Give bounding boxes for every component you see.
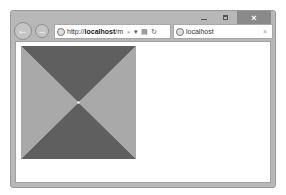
url-protocol: http:// bbox=[67, 28, 85, 35]
compatibility-view-icon[interactable]: ▤ bbox=[141, 28, 148, 36]
window-controls: × bbox=[193, 11, 271, 25]
maximize-icon bbox=[223, 15, 228, 20]
refresh-icon[interactable]: ↻ bbox=[151, 28, 157, 36]
close-icon: × bbox=[237, 11, 271, 25]
minimize-icon bbox=[201, 19, 207, 20]
page-viewport bbox=[15, 41, 271, 183]
address-bar[interactable]: http://localhost/m ⌕ ▾ ▤ ↻ bbox=[54, 24, 171, 39]
tab-page-icon bbox=[176, 28, 184, 36]
back-button[interactable]: ← bbox=[14, 22, 32, 40]
back-arrow-icon: ← bbox=[17, 23, 29, 37]
tab-close-icon[interactable]: × bbox=[260, 28, 270, 35]
forward-arrow-icon: → bbox=[38, 26, 47, 36]
forward-button[interactable]: → bbox=[35, 24, 49, 38]
url-text[interactable]: http://localhost/m bbox=[67, 28, 125, 35]
tab-localhost[interactable]: localhost × bbox=[173, 24, 273, 39]
url-path: /m bbox=[115, 28, 123, 35]
browser-window: × ← → http://localhost/m ⌕ ▾ ▤ ↻ localho… bbox=[10, 10, 276, 188]
minimize-button[interactable] bbox=[193, 11, 215, 25]
hourglass-square-graphic bbox=[21, 46, 136, 159]
maximize-button[interactable] bbox=[215, 11, 237, 25]
search-icon[interactable]: ⌕ bbox=[127, 28, 131, 36]
address-bar-icons: ⌕ ▾ ▤ ↻ bbox=[127, 28, 160, 36]
tab-title: localhost bbox=[186, 28, 260, 35]
url-host: localhost bbox=[85, 28, 116, 35]
dropdown-icon[interactable]: ▾ bbox=[134, 28, 138, 36]
page-icon bbox=[57, 28, 65, 36]
close-button[interactable]: × bbox=[237, 11, 271, 25]
